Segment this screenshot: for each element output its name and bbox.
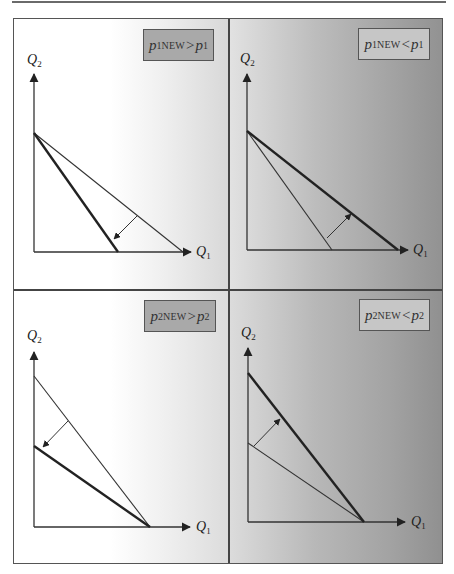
tr-label-p: p xyxy=(364,36,372,53)
br-label-p: p xyxy=(365,307,373,324)
tr-condition-label: p1NEW<p1 xyxy=(358,28,430,60)
tl-label-sub: 1NEW xyxy=(156,40,185,51)
tl-new-budget-line xyxy=(34,133,118,252)
bl-q2-label: Q2 xyxy=(27,328,42,345)
tl-chart xyxy=(34,74,191,252)
budget-line-diagrams xyxy=(0,0,454,574)
tl-q2-label: Q2 xyxy=(27,52,42,69)
tr-label-op: < xyxy=(401,36,409,53)
tr-new-budget-line xyxy=(247,131,398,250)
tl-q1-label: Q1 xyxy=(196,244,211,261)
bl-old-budget-line xyxy=(34,376,150,527)
bl-q1-sub: 1 xyxy=(206,526,211,536)
br-label-rhs-p: p xyxy=(411,307,419,324)
br-chart xyxy=(248,348,405,522)
bl-label-rhs-p: p xyxy=(197,308,205,325)
br-q2-label: Q2 xyxy=(241,325,256,342)
br-q1-sub: 1 xyxy=(421,521,426,531)
bl-new-budget-line xyxy=(34,446,150,527)
tr-label-sub: 1NEW xyxy=(372,39,401,50)
br-label-op: < xyxy=(402,307,410,324)
bl-condition-label: p2NEW>p2 xyxy=(144,300,216,332)
tr-q1-letter: Q xyxy=(413,242,423,257)
bl-shift-arrow xyxy=(43,421,68,447)
tr-q2-letter: Q xyxy=(240,51,250,66)
tl-label-p: p xyxy=(149,37,157,54)
tl-q1-sub: 1 xyxy=(206,251,211,261)
br-q2-sub: 2 xyxy=(251,332,256,342)
tl-label-rhs-p: p xyxy=(195,37,203,54)
br-label-rhs-sub: 2 xyxy=(419,310,424,321)
br-new-budget-line xyxy=(248,373,364,522)
tr-q1-sub: 1 xyxy=(423,249,428,259)
tr-q2-label: Q2 xyxy=(240,51,255,68)
tl-q1-letter: Q xyxy=(196,244,206,259)
br-old-budget-line xyxy=(248,443,364,522)
bl-label-rhs-sub: 2 xyxy=(204,311,209,322)
bl-label-p: p xyxy=(150,308,158,325)
tl-q2-sub: 2 xyxy=(37,59,42,69)
tr-chart xyxy=(247,74,408,250)
br-shift-arrow xyxy=(254,419,280,446)
tr-label-rhs-p: p xyxy=(411,36,419,53)
bl-chart xyxy=(34,352,190,527)
br-q1-letter: Q xyxy=(411,514,421,529)
br-q1-label: Q1 xyxy=(411,514,426,531)
bl-q2-letter: Q xyxy=(27,328,37,343)
tl-label-op: > xyxy=(186,37,194,54)
tl-old-budget-line xyxy=(34,133,183,252)
tl-condition-label: p1NEW>p1 xyxy=(143,29,214,61)
br-q2-letter: Q xyxy=(241,325,251,340)
tr-q1-label: Q1 xyxy=(413,242,428,259)
tl-q2-letter: Q xyxy=(27,52,37,67)
tr-q2-sub: 2 xyxy=(250,58,255,68)
br-label-sub: 2NEW xyxy=(372,310,401,321)
tr-old-budget-line xyxy=(247,131,332,250)
bl-label-sub: 2NEW xyxy=(158,311,187,322)
bl-q2-sub: 2 xyxy=(37,335,42,345)
bl-q1-letter: Q xyxy=(196,519,206,534)
bl-label-op: > xyxy=(187,308,195,325)
tr-label-rhs-sub: 1 xyxy=(418,39,423,50)
bl-q1-label: Q1 xyxy=(196,519,211,536)
tl-label-rhs-sub: 1 xyxy=(203,40,208,51)
tr-shift-arrow xyxy=(327,214,351,238)
tl-shift-arrow xyxy=(114,216,137,239)
br-condition-label: p2NEW<p2 xyxy=(359,299,430,331)
